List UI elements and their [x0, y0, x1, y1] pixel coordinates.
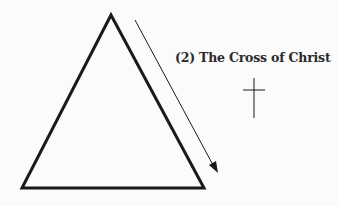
arrow-icon	[135, 20, 218, 173]
diagram-label: (2) The Cross of Christ	[175, 50, 331, 65]
diagram-svg	[0, 0, 339, 206]
cross-icon	[243, 78, 265, 118]
diagram-canvas: (2) The Cross of Christ	[0, 0, 339, 206]
triangle-icon	[22, 15, 204, 188]
